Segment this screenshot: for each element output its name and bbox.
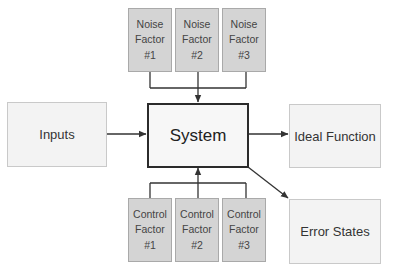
error-states-box: Error States — [289, 199, 381, 264]
control-factor-3-label: Control Factor #3 — [223, 207, 265, 253]
ideal-function-box: Ideal Function — [289, 104, 381, 168]
noise-factor-3-label: Noise Factor #3 — [223, 17, 265, 63]
noise-factor-2: Noise Factor #2 — [175, 8, 219, 72]
system-label: System — [170, 126, 227, 146]
error-states-label: Error States — [300, 224, 369, 239]
control-factor-2: Control Factor #2 — [175, 198, 219, 262]
control-factor-1-label: Control Factor #1 — [129, 207, 171, 253]
ideal-function-label: Ideal Function — [294, 129, 376, 144]
noise-factor-2-label: Noise Factor #2 — [176, 17, 218, 63]
control-factor-2-label: Control Factor #2 — [176, 207, 218, 253]
system-box: System — [147, 103, 249, 168]
noise-factor-3: Noise Factor #3 — [222, 8, 266, 72]
inputs-box: Inputs — [7, 102, 107, 167]
noise-connector — [150, 72, 246, 102]
arrow-system-to-error-states — [248, 167, 288, 198]
control-factor-1: Control Factor #1 — [128, 198, 172, 262]
control-factor-3: Control Factor #3 — [222, 198, 266, 262]
inputs-label: Inputs — [39, 127, 74, 142]
noise-factor-1-label: Noise Factor #1 — [129, 17, 171, 63]
noise-factor-1: Noise Factor #1 — [128, 8, 172, 72]
control-connector — [150, 168, 246, 198]
